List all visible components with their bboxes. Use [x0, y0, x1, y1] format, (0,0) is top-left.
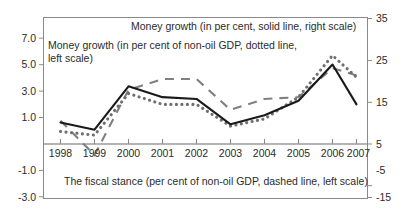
right-axis-tick-5: 5 [376, 139, 406, 150]
annotation-dotted-series-line2: left scale) [48, 52, 93, 65]
annotation-solid-series: Money growth (in per cent, solid line, r… [131, 20, 356, 33]
annotation-dashed-series: The fiscal stance (per cent of non-oil G… [64, 175, 368, 188]
x-axis-tick-2007: 2007 [341, 148, 376, 159]
right-axis-tick-15: 15 [376, 97, 406, 108]
x-axis-ticks [61, 139, 357, 144]
left-axis-tick-neg3: -3.0 [2, 192, 36, 203]
right-axis-tick-neg15: -15 [376, 192, 406, 203]
x-axis-tick-1998: 1998 [43, 148, 78, 159]
right-axis-ticks [368, 19, 373, 198]
annotation-dotted-series-line1: Money growth (in per cent of non-oil GDP… [48, 39, 297, 52]
x-axis-tick-2005: 2005 [281, 148, 316, 159]
left-axis-ticks [39, 38, 44, 197]
chart-figure: 7.0 5.0 3.0 1.0 -1.0 -3.0 35 25 15 5 -5 … [0, 0, 410, 216]
left-axis-tick-1: 1.0 [2, 112, 36, 123]
series-line-money-growth-gdp [61, 56, 357, 136]
left-axis-tick-5: 5.0 [2, 59, 36, 70]
x-axis-tick-2000: 2000 [111, 148, 146, 159]
left-axis-tick-3: 3.0 [2, 86, 36, 97]
x-axis-tick-2003: 2003 [213, 148, 248, 159]
left-axis-tick-neg1: -1.0 [2, 165, 36, 176]
right-axis-tick-25: 25 [376, 55, 406, 66]
x-axis-tick-2001: 2001 [145, 148, 180, 159]
right-axis-tick-neg5: -5 [376, 165, 406, 176]
x-axis-tick-2002: 2002 [179, 148, 214, 159]
x-axis-tick-1999: 1999 [77, 148, 112, 159]
series-line-money-growth [61, 65, 357, 130]
left-axis-tick-7: 7.0 [2, 33, 36, 44]
x-axis-tick-2004: 2004 [247, 148, 282, 159]
right-axis-tick-35: 35 [376, 13, 406, 24]
